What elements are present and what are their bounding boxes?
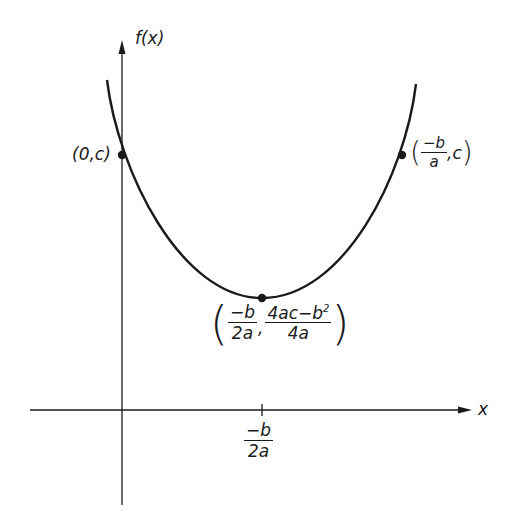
denominator: 2a bbox=[248, 441, 269, 460]
numerator: −b bbox=[421, 136, 447, 153]
parabola-curve bbox=[107, 80, 416, 298]
close-paren: ) bbox=[331, 300, 349, 346]
numerator: −b bbox=[244, 422, 273, 441]
denominator: 2a bbox=[232, 323, 253, 342]
fraction: −b 2a bbox=[244, 422, 273, 460]
vertex-x-fraction: −b 2a bbox=[228, 304, 257, 342]
y-intercept-point bbox=[118, 151, 126, 159]
x-tick-label: −b 2a bbox=[244, 422, 273, 460]
open-paren: ( bbox=[210, 300, 228, 346]
symmetric-point bbox=[398, 151, 406, 159]
x-axis-label: x bbox=[478, 401, 488, 418]
suffix: ,c bbox=[447, 145, 462, 162]
y-axis-label: f(x) bbox=[135, 30, 164, 47]
parabola-diagram: f(x) x (0,c) ( −b a ,c ) ( −b 2a , 4ac−b… bbox=[0, 0, 509, 527]
fraction: −b a bbox=[421, 136, 447, 170]
numerator: 4ac−b2 bbox=[265, 304, 331, 324]
y-axis-arrow-icon bbox=[119, 40, 126, 54]
exponent: 2 bbox=[323, 303, 329, 314]
denominator: a bbox=[429, 153, 438, 170]
close-paren: ) bbox=[462, 139, 473, 167]
numerator: −b bbox=[228, 304, 257, 323]
y-intercept-label: (0,c) bbox=[72, 146, 111, 163]
x-axis-arrow-icon bbox=[458, 407, 472, 414]
open-paren: ( bbox=[410, 139, 421, 167]
numerator-text: 4ac−b bbox=[267, 302, 323, 322]
symmetric-point-label: ( −b a ,c ) bbox=[410, 136, 473, 170]
vertex-y-fraction: 4ac−b2 4a bbox=[265, 304, 331, 343]
comma: , bbox=[258, 320, 263, 337]
vertex-label: ( −b 2a , 4ac−b2 4a ) bbox=[210, 300, 349, 346]
denominator: 4a bbox=[288, 323, 309, 342]
